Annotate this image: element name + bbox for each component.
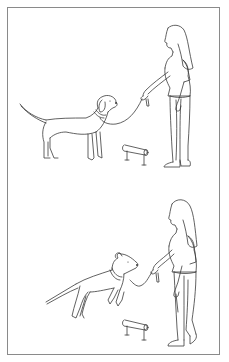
jump-bar-bottom bbox=[123, 320, 149, 340]
woman-bottom bbox=[151, 200, 197, 346]
panel-bottom bbox=[46, 200, 197, 346]
jump-bar-top bbox=[123, 145, 149, 165]
dog-standing bbox=[20, 95, 117, 160]
woman-top bbox=[141, 25, 193, 167]
dog-jumping bbox=[46, 253, 138, 318]
leash-top bbox=[100, 99, 142, 124]
panel-top bbox=[20, 25, 193, 167]
illustration bbox=[0, 0, 229, 362]
leash-bottom bbox=[130, 272, 152, 286]
